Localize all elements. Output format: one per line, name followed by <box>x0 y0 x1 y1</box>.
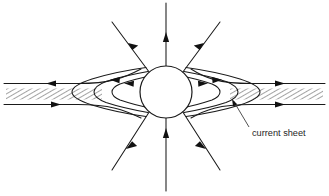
current-sheet-right-hatch <box>230 89 323 100</box>
radial-line-down-left <box>112 112 150 171</box>
arrowhead-loop-left-outer <box>110 77 120 83</box>
arrowhead-loop-right-outer <box>212 77 222 83</box>
arrowhead-radial-up <box>163 32 169 42</box>
current-sheet-left <box>6 89 102 100</box>
reconnection-diagram-figure: current sheet <box>0 0 329 196</box>
arrowhead-outer-bottom-left <box>51 101 61 107</box>
current-sheet-left-hatch <box>6 89 102 100</box>
radial-line-down-right <box>183 112 221 171</box>
arrowhead-outer-top-right <box>275 80 285 86</box>
arrowhead-outer-bottom-right <box>275 101 285 107</box>
arrowhead-outer-top-left <box>46 80 56 86</box>
arrowhead-radial-down <box>163 128 169 138</box>
current-sheet-right <box>230 89 323 100</box>
field-line-outer-upper-left <box>4 69 141 84</box>
current-sheet-label: current sheet <box>252 128 306 138</box>
central-sphere <box>140 66 192 118</box>
diagram-canvas: current sheet <box>0 0 329 196</box>
field-line-outer-upper-right <box>191 69 325 84</box>
